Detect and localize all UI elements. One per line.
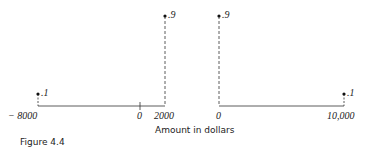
left-low-prob-label: .1: [41, 87, 49, 98]
x-axis-label: Amount in dollars: [155, 125, 235, 135]
left-tick-min-label: − 8000: [8, 110, 37, 121]
right-chart: .9 .1 0 10,000: [216, 9, 355, 121]
figure-canvas: .1 .9 − 8000 0 2000 .9 .1 0 10,000 Amoun…: [0, 0, 372, 150]
figure-caption: Figure 4.4: [20, 137, 65, 147]
left-low-point: [36, 92, 39, 95]
right-low-point: [342, 92, 345, 95]
left-chart: .1 .9 − 8000 0 2000: [8, 9, 176, 121]
right-tick-max-label: 10,000: [327, 110, 355, 121]
right-high-prob-label: .9: [222, 9, 230, 20]
right-high-point: [217, 14, 220, 17]
right-tick-zero-label: 0: [216, 110, 221, 121]
left-tick-max-label: 2000: [154, 110, 174, 121]
left-high-point: [163, 14, 166, 17]
left-tick-zero-label: 0: [137, 110, 142, 121]
right-low-prob-label: .1: [347, 87, 355, 98]
left-high-prob-label: .9: [168, 9, 176, 20]
